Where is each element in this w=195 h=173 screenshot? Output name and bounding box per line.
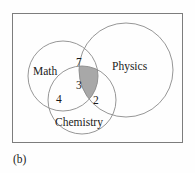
set-label-math: Math	[33, 66, 57, 78]
region-count-math-physics-chemistry: 3	[76, 80, 82, 92]
region-count-math-chemistry: 4	[56, 94, 62, 106]
set-label-chemistry: Chemistry	[55, 117, 103, 129]
figure-caption: (b)	[13, 154, 26, 166]
set-label-physics: Physics	[112, 61, 147, 73]
region-count-math-physics: 7	[76, 57, 82, 69]
figure-container: Math Physics Chemistry 7 3 4 2 (b)	[0, 0, 195, 173]
region-count-physics-chemistry: 2	[93, 95, 99, 107]
